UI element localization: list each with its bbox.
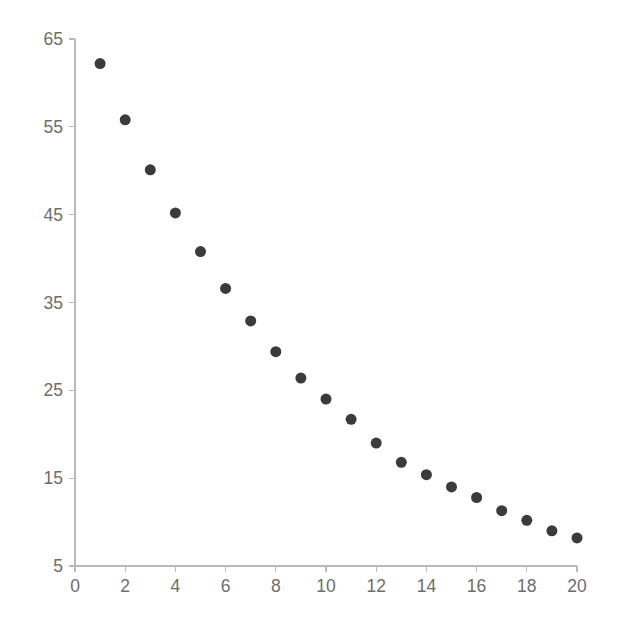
x-tick-label-4: 4 (171, 576, 181, 596)
x-tick-label-8: 8 (271, 576, 281, 596)
data-point-16 (471, 492, 482, 503)
data-point-8 (270, 346, 281, 357)
data-point-9 (295, 373, 306, 384)
x-tick-label-10: 10 (316, 576, 336, 596)
plot-area: 515253545556502468101214161820 (0, 0, 624, 623)
x-tick-label-18: 18 (517, 576, 536, 596)
data-point-2 (120, 114, 131, 125)
data-point-5 (195, 246, 206, 257)
y-tick-label-25: 25 (44, 380, 63, 400)
data-point-15 (446, 481, 457, 492)
x-tick-label-12: 12 (366, 576, 385, 596)
y-tick-label-35: 35 (44, 293, 63, 313)
data-point-17 (496, 505, 507, 516)
data-point-14 (421, 469, 432, 480)
data-point-1 (95, 58, 106, 69)
y-tick-label-15: 15 (44, 468, 63, 488)
y-tick-label-5: 5 (53, 556, 63, 576)
x-tick-label-16: 16 (467, 576, 486, 596)
x-tick-label-14: 14 (417, 576, 437, 596)
data-point-19 (546, 525, 557, 536)
x-tick-label-20: 20 (567, 576, 587, 596)
data-points (95, 58, 583, 543)
data-point-11 (346, 414, 357, 425)
data-point-18 (521, 515, 532, 526)
y-tick-label-65: 65 (44, 29, 63, 49)
data-point-12 (371, 438, 382, 449)
data-point-3 (145, 164, 156, 175)
y-tick-label-55: 55 (44, 117, 63, 137)
data-point-13 (396, 457, 407, 468)
data-point-6 (220, 283, 231, 294)
data-point-7 (245, 315, 256, 326)
data-point-4 (170, 207, 181, 218)
y-tick-label-45: 45 (44, 205, 63, 225)
x-tick-label-6: 6 (221, 576, 231, 596)
scatter-chart: 515253545556502468101214161820 (0, 0, 624, 623)
data-point-10 (321, 394, 332, 405)
axes (75, 39, 577, 566)
x-tick-label-0: 0 (70, 576, 80, 596)
x-tick-label-2: 2 (120, 576, 130, 596)
data-point-20 (572, 532, 583, 543)
